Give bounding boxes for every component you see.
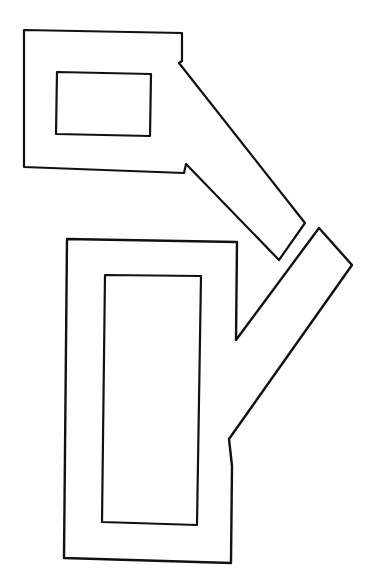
lower-frame-inner-window — [102, 275, 201, 525]
upper-frame-outline — [24, 30, 305, 260]
upper-frame — [24, 30, 305, 260]
lower-frame-outline — [64, 228, 352, 563]
diagram-canvas — [0, 0, 375, 588]
upper-frame-inner-window — [56, 72, 151, 136]
lower-frame — [64, 228, 352, 563]
